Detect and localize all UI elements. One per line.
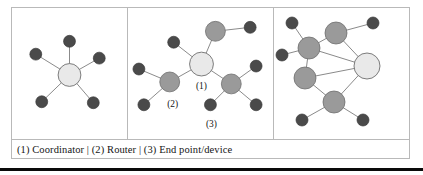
node-end-device[interactable] xyxy=(168,36,180,48)
node-end-device[interactable] xyxy=(133,63,145,75)
node-coordinator[interactable] xyxy=(190,52,214,76)
star-topology-diagram xyxy=(12,8,127,139)
node-router[interactable] xyxy=(298,37,320,59)
legend-caption: (1) Coordinator | (2) Router | (3) End p… xyxy=(12,144,232,155)
node-router[interactable] xyxy=(294,67,316,89)
node-router[interactable] xyxy=(323,91,345,113)
node-end-device[interactable] xyxy=(204,99,216,111)
node-end-device[interactable] xyxy=(138,99,150,111)
panel-mesh-topology xyxy=(274,8,409,139)
node-end-device[interactable] xyxy=(30,48,42,60)
node-end-device[interactable] xyxy=(64,35,76,47)
node-end-device[interactable] xyxy=(93,52,105,64)
node-end-device[interactable] xyxy=(367,17,379,29)
bottom-rule xyxy=(0,168,423,171)
label-router: (2) xyxy=(167,99,178,110)
node-end-device[interactable] xyxy=(357,114,369,126)
node-end-device[interactable] xyxy=(244,21,256,33)
node-router[interactable] xyxy=(205,21,225,41)
tree-topology-diagram: (1) (2) (3) xyxy=(128,8,273,139)
node-end-device[interactable] xyxy=(36,96,48,108)
node-end-device[interactable] xyxy=(87,97,99,109)
node-coordinator[interactable] xyxy=(58,64,81,87)
panel-star-topology xyxy=(12,8,128,139)
mesh-topology-diagram xyxy=(274,8,409,139)
node-router[interactable] xyxy=(160,72,180,92)
caption-row: (1) Coordinator | (2) Router | (3) End p… xyxy=(12,139,409,159)
node-end-device[interactable] xyxy=(250,60,262,72)
node-router[interactable] xyxy=(325,22,347,44)
node-end-device[interactable] xyxy=(286,17,298,29)
label-coordinator: (1) xyxy=(196,81,207,92)
panels-row: (1) (2) (3) xyxy=(12,8,409,139)
figure-container: (1) (2) (3) xyxy=(11,7,410,159)
node-end-device[interactable] xyxy=(296,114,308,126)
label-end-device: (3) xyxy=(206,119,217,130)
node-coordinator[interactable] xyxy=(354,53,380,79)
node-router[interactable] xyxy=(221,74,241,94)
node-end-device[interactable] xyxy=(250,99,262,111)
panel-tree-topology: (1) (2) (3) xyxy=(128,8,274,139)
node-end-device[interactable] xyxy=(276,49,288,61)
